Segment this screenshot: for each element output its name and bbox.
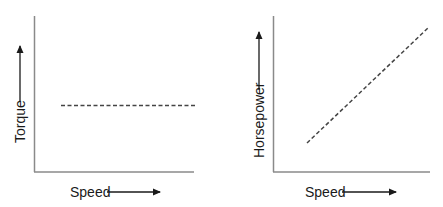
y-axis-label: Horsepower [251,82,267,158]
x-axis-label: Speed [305,184,345,200]
y-axis-label: Torque [12,100,28,143]
torque-chart: Torque Speed [12,16,195,200]
x-axis-label: Speed [70,184,110,200]
horsepower-line [307,28,428,143]
diagram-canvas: Torque Speed Horsepower Speed [0,0,443,207]
horsepower-chart: Horsepower Speed [251,16,430,200]
